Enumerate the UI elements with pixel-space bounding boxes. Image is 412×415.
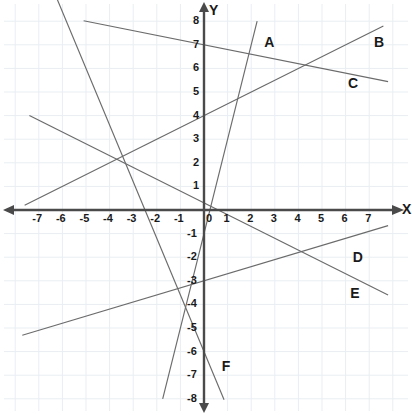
tick-label-x-2: 2 <box>247 212 253 224</box>
line-label-b: B <box>374 34 384 50</box>
tick-label-y-8: 8 <box>193 14 199 26</box>
tick-label-x--2: -2 <box>150 212 160 224</box>
tick-label-x-3: 3 <box>271 212 277 224</box>
tick-label-x--4: -4 <box>103 212 113 224</box>
tick-label-y--4: -4 <box>187 297 197 309</box>
tick-label-x--6: -6 <box>56 212 66 224</box>
line-label-f: F <box>222 358 231 374</box>
gridlines <box>4 4 408 411</box>
tick-label-y--6: -6 <box>187 345 197 357</box>
graph-canvas <box>0 0 412 415</box>
tick-label-x-5: 5 <box>318 212 324 224</box>
tick-label-y-7: 7 <box>193 38 199 50</box>
plot-line-c <box>84 21 388 82</box>
tick-label-x-1: 1 <box>224 212 230 224</box>
tick-label-x--7: -7 <box>32 212 42 224</box>
tick-label-origin: 0 <box>206 212 212 224</box>
tick-label-x-6: 6 <box>342 212 348 224</box>
x-axis-name: X <box>402 201 411 217</box>
tick-label-y--5: -5 <box>187 321 197 333</box>
tick-label-x--3: -3 <box>127 212 137 224</box>
x-axis-arrow-left <box>3 205 14 215</box>
tick-label-y-3: 3 <box>193 132 199 144</box>
y-axis-arrow-down <box>199 403 209 413</box>
tick-label-y--8: -8 <box>187 392 197 404</box>
tick-label-y-2: 2 <box>193 156 199 168</box>
line-label-e: E <box>350 285 359 301</box>
tick-label-y--7: -7 <box>187 368 197 380</box>
tick-label-y--1: -1 <box>187 227 197 239</box>
y-axis-name: Y <box>209 2 218 18</box>
line-label-d: D <box>353 249 363 265</box>
tick-label-y-5: 5 <box>193 85 199 97</box>
y-axis-arrow-up <box>199 2 209 12</box>
tick-label-x--5: -5 <box>80 212 90 224</box>
tick-label-y--2: -2 <box>187 250 197 262</box>
line-label-c: C <box>348 75 358 91</box>
line-label-a: A <box>264 34 274 50</box>
tick-label-x-7: 7 <box>365 212 371 224</box>
tick-label-y--3: -3 <box>187 274 197 286</box>
tick-label-x-4: 4 <box>294 212 300 224</box>
tick-label-y-1: 1 <box>193 179 199 191</box>
coordinate-plane-figure: -7-6-5-4-3-2-10123456787654321-1-2-3-4-5… <box>0 0 412 415</box>
tick-label-y-4: 4 <box>193 109 199 121</box>
tick-label-x--1: -1 <box>174 212 184 224</box>
tick-label-y-6: 6 <box>193 61 199 73</box>
plot-line-e <box>29 116 388 295</box>
